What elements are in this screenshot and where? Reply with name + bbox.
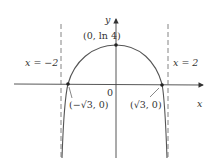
point-right-intercept	[160, 83, 164, 87]
left-asymptote-label: x = −2	[25, 58, 58, 68]
right-asymptote-label: x = 2	[173, 58, 198, 68]
x-axis-label: x	[197, 99, 202, 109]
leader-left	[69, 87, 72, 98]
right-intercept-label: (√3, 0)	[130, 100, 162, 110]
x-axis	[14, 84, 203, 85]
left-intercept-label: (−√3, 0)	[69, 100, 109, 110]
peak-point-label: (0, ln 4)	[83, 31, 121, 41]
point-peak	[114, 43, 118, 47]
point-left-intercept	[66, 82, 70, 86]
origin-label: 0	[107, 88, 113, 98]
leader-right	[150, 88, 159, 97]
graph-figure: y x 0 (0, ln 4) (−√3, 0) (√3, 0) x = −2 …	[0, 0, 210, 163]
y-axis-label: y	[105, 15, 110, 25]
